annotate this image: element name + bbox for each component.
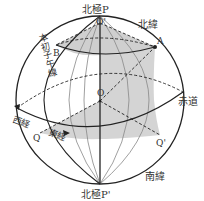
equator-label: 赤道 [178, 95, 198, 107]
point-A-label: A [156, 36, 164, 46]
north-latitude-label: 北緯 [138, 18, 158, 30]
south-latitude-label: 南緯 [145, 170, 165, 182]
globe-diagram: 北極P 北極P' 北緯 南緯 赤道 西経 東経 本初子午線 O O' A B Q… [0, 0, 204, 201]
point-O-dot [99, 100, 102, 103]
point-Q-label: Q [33, 133, 40, 143]
north-pole-label: 北極P [82, 3, 109, 15]
point-Q-prime-label: Q' [156, 138, 166, 148]
point-O-prime-label: O' [96, 17, 106, 27]
point-O-label: O [97, 88, 104, 98]
point-B-label: B [53, 48, 60, 58]
west-longitude-label: 西経 [11, 114, 32, 130]
south-pole-label: 北極P' [81, 188, 110, 200]
